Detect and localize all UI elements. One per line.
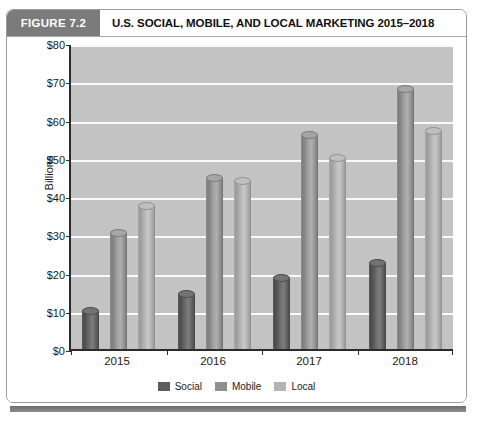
bar-social-2018 (369, 259, 386, 349)
bar-social-2015 (82, 307, 99, 349)
x-axis-tick-2016: 2016 (165, 355, 261, 367)
bar-social-2017 (273, 274, 290, 349)
y-axis-tick-80: $80 (47, 39, 65, 51)
bar-cap (178, 290, 195, 298)
figure-title: U.S. SOCIAL, MOBILE, AND LOCAL MARKETING… (100, 10, 466, 36)
bar-local-2017 (329, 154, 346, 349)
y-axis-tick-50: $50 (47, 154, 65, 166)
bar-body (369, 263, 386, 349)
bar-cap (82, 307, 99, 315)
y-axis-tick-labels: $0$10$20$30$40$50$60$70$80 (25, 45, 65, 351)
legend-label-mobile: Mobile (232, 381, 261, 392)
y-axis-tick-70: $70 (47, 77, 65, 89)
x-axis-tick-2017: 2017 (261, 355, 357, 367)
page-caption-clip (0, 416, 479, 424)
bar-cap (425, 127, 442, 135)
chart-body: Billions $0$10$20$30$40$50$60$70$80 2015… (7, 37, 466, 402)
bar-group-2017 (262, 45, 358, 349)
bar-local-2016 (234, 177, 251, 349)
bar-local-2018 (425, 127, 442, 349)
bar-mobile-2018 (397, 85, 414, 349)
y-axis-tick-10: $10 (47, 307, 65, 319)
figure-number-badge: FIGURE 7.2 (7, 10, 100, 36)
bar-cap (369, 259, 386, 267)
legend-item-social[interactable]: Social (158, 381, 202, 392)
legend-swatch-social (158, 382, 170, 391)
bar-body (178, 294, 195, 349)
figure-frame: FIGURE 7.2 U.S. SOCIAL, MOBILE, AND LOCA… (6, 9, 467, 403)
x-axis-tick-labels: 2015201620172018 (69, 355, 453, 367)
bar-social-2016 (178, 290, 195, 349)
bar-group-2018 (358, 45, 454, 349)
y-axis-tick-20: $20 (47, 269, 65, 281)
bar-cap (397, 85, 414, 93)
legend-item-local[interactable]: Local (274, 381, 315, 392)
x-axis-tick-2015: 2015 (69, 355, 165, 367)
bar-mobile-2016 (206, 174, 223, 349)
bar-cap (206, 174, 223, 182)
bar-cap (234, 177, 251, 185)
y-axis-tick-60: $60 (47, 116, 65, 128)
bar-body (329, 158, 346, 349)
bar-cap (110, 229, 127, 237)
bar-local-2015 (138, 202, 155, 349)
legend-item-mobile[interactable]: Mobile (215, 381, 261, 392)
legend-label-local: Local (291, 381, 315, 392)
bar-body (82, 311, 99, 349)
bar-mobile-2017 (301, 131, 318, 349)
legend-label-social: Social (175, 381, 202, 392)
figure-footer-rule (10, 406, 466, 412)
plot-area (69, 45, 453, 351)
bar-group-2016 (167, 45, 263, 349)
y-axis-tick-0: $0 (53, 345, 65, 357)
bar-cap (138, 202, 155, 210)
bar-body (273, 278, 290, 349)
bar-body (425, 131, 442, 349)
bar-body (397, 89, 414, 349)
legend-swatch-local (274, 382, 286, 391)
bar-groups (71, 45, 453, 349)
bar-group-2015 (71, 45, 167, 349)
bar-body (206, 178, 223, 349)
bar-body (138, 206, 155, 349)
bar-body (110, 233, 127, 349)
legend-swatch-mobile (215, 382, 227, 391)
bar-cap (329, 154, 346, 162)
x-axis-tick-2018: 2018 (357, 355, 453, 367)
bar-body (301, 135, 318, 349)
figure-header: FIGURE 7.2 U.S. SOCIAL, MOBILE, AND LOCA… (7, 10, 466, 37)
bar-body (234, 181, 251, 349)
y-axis-tick-40: $40 (47, 192, 65, 204)
bar-mobile-2015 (110, 229, 127, 349)
y-axis-tick-30: $30 (47, 230, 65, 242)
chart-legend: SocialMobileLocal (7, 381, 466, 392)
